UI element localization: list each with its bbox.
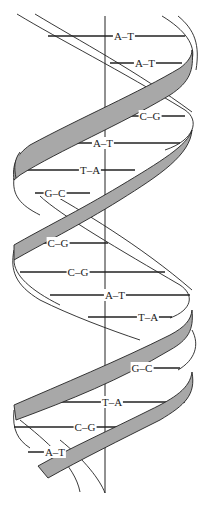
base-pair-label: T–A (101, 396, 123, 408)
base-pair-label: C–G (74, 421, 97, 433)
base-pair-label: A–T (92, 137, 114, 149)
base-pair-label: A–T (134, 57, 156, 69)
base-pair-label: G–C (131, 362, 154, 374)
dna-helix-diagram (0, 0, 207, 508)
base-pair-label: A–T (104, 289, 126, 301)
front-strand-ribbon (14, 50, 193, 478)
base-pair-label: A–T (113, 30, 135, 42)
base-pair-label: T–A (137, 311, 159, 323)
base-pair-label: C–G (47, 237, 70, 249)
base-pair-label: A–T (44, 446, 66, 458)
base-pair-label: C–G (67, 266, 90, 278)
base-pair-label: T–A (79, 164, 101, 176)
base-pair-label: G–C (44, 187, 67, 199)
base-pair-label: C–G (139, 110, 162, 122)
